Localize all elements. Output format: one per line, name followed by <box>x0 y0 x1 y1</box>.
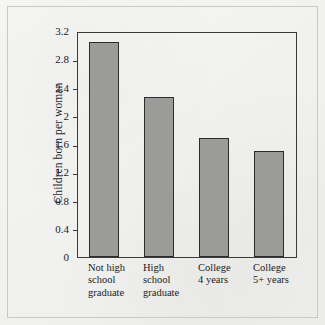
bar <box>199 138 229 257</box>
x-axis-label-line: school <box>88 274 125 286</box>
y-axis-tick-label: 1.2 <box>55 166 69 178</box>
x-axis-label-line: Not high <box>88 262 125 274</box>
plot-area: Children born per woman 3.22.82.421.61.2… <box>77 32 297 258</box>
y-axis-tick-label: 0.8 <box>55 195 69 207</box>
x-axis-label-line: school <box>143 274 179 286</box>
x-axis-label-line: graduate <box>143 287 179 299</box>
y-axis-tick-mark <box>73 117 78 118</box>
y-axis-tick-label: 2.4 <box>55 82 69 94</box>
x-axis-label-line: College <box>253 262 289 274</box>
figure-page: Children born per woman 3.22.82.421.61.2… <box>0 0 325 325</box>
y-axis-tick-mark <box>73 89 78 90</box>
y-axis-tick-label: 0 <box>64 251 70 263</box>
bar <box>89 42 119 257</box>
x-axis-label-line: 5+ years <box>253 274 289 286</box>
x-axis-label: Not highschoolgraduate <box>88 262 125 299</box>
y-axis-tick-label: 0.4 <box>55 223 69 235</box>
y-axis-tick-mark <box>73 61 78 62</box>
y-axis-tick-mark <box>73 174 78 175</box>
y-axis-tick-mark <box>73 202 78 203</box>
y-axis-tick-label: 1.6 <box>55 138 69 150</box>
bar <box>144 97 174 257</box>
x-axis-label: College4 years <box>198 262 231 287</box>
x-axis-label-line: High <box>143 262 179 274</box>
y-axis-tick-label: 3.2 <box>55 25 69 37</box>
y-axis-tick-label: 2 <box>64 110 70 122</box>
bar <box>254 151 284 257</box>
y-axis-tick-mark <box>73 146 78 147</box>
x-axis-label-line: graduate <box>88 287 125 299</box>
y-axis-tick-label: 2.8 <box>55 53 69 65</box>
x-axis-label: College5+ years <box>253 262 289 287</box>
x-axis-label-line: College <box>198 262 231 274</box>
y-axis-tick-mark <box>73 230 78 231</box>
x-axis-label: Highschoolgraduate <box>143 262 179 299</box>
x-axis-label-line: 4 years <box>198 274 231 286</box>
